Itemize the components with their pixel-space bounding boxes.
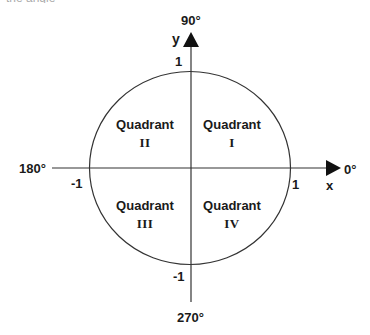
x-axis-label: x <box>326 178 334 193</box>
tick-y-pos: 1 <box>175 54 182 69</box>
quadrant-3-numeral: III <box>137 216 154 231</box>
angle-label-180: 180° <box>19 161 46 176</box>
y-axis-label: y <box>172 31 180 47</box>
angle-label-270: 270° <box>177 310 204 325</box>
y-axis-arrowhead-icon <box>183 32 199 47</box>
quadrant-4-word: Quadrant <box>203 198 261 213</box>
quadrant-1-numeral: I <box>229 135 235 150</box>
tick-x-neg: -1 <box>71 176 83 191</box>
quadrant-3-word: Quadrant <box>116 198 174 213</box>
tick-y-neg: -1 <box>173 269 185 284</box>
angle-label-0: 0° <box>344 162 356 177</box>
unit-circle-diagram: the angle 90° 180° 0° 270° y x 1 -1 -1 1… <box>0 0 370 335</box>
angle-label-90: 90° <box>181 13 201 28</box>
quadrant-1-word: Quadrant <box>203 117 261 132</box>
clipped-caption: the angle <box>6 0 126 3</box>
quadrant-4-numeral: IV <box>224 216 240 231</box>
quadrant-2-numeral: II <box>139 135 150 150</box>
tick-x-pos: 1 <box>292 177 299 192</box>
quadrant-2-word: Quadrant <box>116 117 174 132</box>
x-axis-arrowhead-icon <box>326 160 341 176</box>
